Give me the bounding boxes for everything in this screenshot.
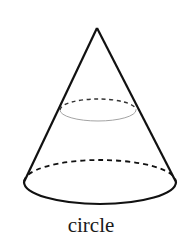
- cone-right-side: [97, 28, 176, 182]
- cross-section-circle-back: [60, 99, 136, 110]
- cross-section-circle-front: [60, 110, 136, 121]
- cone: [24, 28, 176, 204]
- diagram-label: circle: [0, 212, 182, 238]
- base-circle-back: [24, 160, 176, 182]
- cone-left-side: [24, 28, 97, 182]
- base-circle-front: [24, 182, 176, 204]
- cone-diagram: [0, 0, 182, 241]
